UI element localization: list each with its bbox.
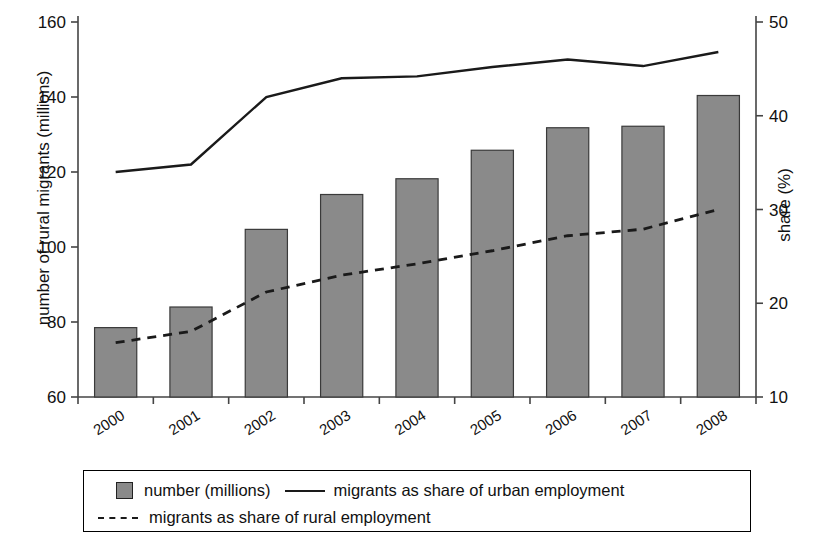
x-tick-label: 2007 xyxy=(617,406,654,438)
y-tick-label-left: 160 xyxy=(38,13,66,32)
legend-dashed-line-icon xyxy=(98,517,138,519)
legend-solid-line-icon xyxy=(285,490,325,492)
x-tick-label: 2003 xyxy=(316,406,353,438)
legend-row-1: number (millions) migrants as share of u… xyxy=(98,477,750,504)
legend-dashed-label: migrants as share of rural employment xyxy=(149,508,431,527)
y-tick-label-left: 140 xyxy=(38,88,66,107)
bar xyxy=(547,128,589,397)
x-tick-label: 2000 xyxy=(90,406,127,438)
y-tick-label-left: 60 xyxy=(47,388,66,407)
y-tick-label-left: 80 xyxy=(47,313,66,332)
bar xyxy=(245,229,287,397)
y-tick-label-left: 120 xyxy=(38,163,66,182)
bar xyxy=(95,328,137,397)
x-tick-label: 2005 xyxy=(467,406,504,438)
bar xyxy=(321,195,363,398)
y-tick-label-left: 100 xyxy=(38,238,66,257)
chart-root: number of rural migrants (millions) shar… xyxy=(0,0,834,537)
y-tick-label-right: 20 xyxy=(769,294,788,313)
bar xyxy=(471,150,513,397)
y-tick-label-right: 10 xyxy=(769,388,788,407)
x-tick-label: 2002 xyxy=(241,406,278,438)
y-tick-label-right: 40 xyxy=(769,107,788,126)
x-tick-label: 2006 xyxy=(542,406,579,438)
bar xyxy=(170,307,212,397)
chart-legend: number (millions) migrants as share of u… xyxy=(83,470,751,532)
legend-bar-label: number (millions) xyxy=(144,481,271,500)
legend-solid-label: migrants as share of urban employment xyxy=(334,481,625,500)
bar xyxy=(396,179,438,397)
legend-bar-swatch-icon xyxy=(116,482,133,499)
x-tick-label: 2004 xyxy=(391,406,428,438)
chart-canvas: 6080100120140160102030405020002001200220… xyxy=(0,0,834,470)
x-tick-label: 2008 xyxy=(693,406,730,438)
y-tick-label-right: 30 xyxy=(769,201,788,220)
legend-row-2: migrants as share of rural employment xyxy=(98,504,750,531)
y-tick-label-right: 50 xyxy=(769,13,788,32)
plot-area: 6080100120140160102030405020002001200220… xyxy=(0,0,834,470)
x-tick-label: 2001 xyxy=(165,406,202,438)
bar xyxy=(697,96,739,398)
bar xyxy=(622,126,664,397)
